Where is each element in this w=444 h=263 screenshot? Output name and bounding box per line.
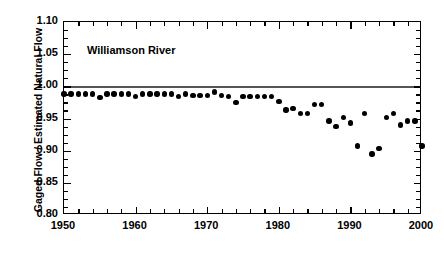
data-point	[269, 94, 274, 99]
data-point	[384, 115, 389, 120]
data-point	[197, 93, 202, 98]
axis-tick	[64, 54, 71, 55]
data-point	[305, 111, 310, 116]
axis-tick	[408, 22, 409, 26]
data-point	[76, 91, 81, 96]
axis-tick	[279, 207, 280, 214]
axis-tick	[164, 22, 165, 26]
axis-tick	[416, 110, 420, 111]
data-point	[90, 91, 95, 96]
axis-tick	[322, 209, 323, 213]
data-point	[376, 146, 381, 151]
data-point	[276, 99, 281, 104]
axis-tick	[250, 209, 251, 213]
data-point	[97, 95, 102, 100]
y-tick-label: 0.85	[10, 175, 58, 187]
data-point	[119, 91, 124, 96]
y-tick-label: 1.10	[10, 14, 58, 26]
axis-tick	[64, 119, 71, 120]
axis-tick	[416, 102, 420, 103]
axis-tick	[64, 127, 68, 128]
axis-tick	[64, 159, 68, 160]
axis-tick	[322, 22, 323, 26]
axis-tick	[414, 54, 421, 55]
axis-tick	[416, 159, 420, 160]
data-point	[154, 91, 159, 96]
axis-tick	[136, 207, 137, 214]
axis-tick	[416, 135, 420, 136]
axis-tick	[64, 143, 68, 144]
axis-tick	[236, 209, 237, 213]
data-point	[341, 115, 346, 120]
axis-tick	[416, 143, 420, 144]
axis-tick	[416, 46, 420, 47]
axis-tick	[416, 191, 420, 192]
axis-tick	[193, 22, 194, 26]
axis-tick	[416, 30, 420, 31]
axis-tick	[64, 94, 68, 95]
chart-figure: Gaged Flow / Estimated Natural Flow 0.80…	[0, 0, 444, 263]
data-point	[190, 93, 195, 98]
axis-tick	[350, 22, 351, 29]
data-point	[312, 102, 317, 107]
reference-line-1.00	[64, 86, 420, 87]
axis-tick	[93, 209, 94, 213]
axis-tick	[416, 199, 420, 200]
axis-tick	[408, 209, 409, 213]
data-point	[83, 91, 88, 96]
data-point	[226, 94, 231, 99]
axis-tick	[64, 78, 68, 79]
axis-tick	[293, 22, 294, 26]
axis-tick	[121, 209, 122, 213]
data-point	[212, 89, 217, 94]
axis-tick	[64, 86, 71, 87]
axis-tick	[64, 199, 68, 200]
axis-tick	[78, 22, 79, 26]
axis-tick	[279, 22, 280, 29]
data-point	[111, 91, 116, 96]
axis-tick	[236, 22, 237, 26]
axis-tick	[307, 22, 308, 26]
axis-tick	[179, 22, 180, 26]
axis-tick	[416, 167, 420, 168]
data-point	[398, 122, 403, 127]
axis-tick	[64, 110, 68, 111]
axis-tick	[222, 209, 223, 213]
y-tick-label: 1.00	[10, 78, 58, 90]
axis-tick	[64, 102, 68, 103]
axis-tick	[222, 22, 223, 26]
x-tick-label: 1990	[326, 219, 372, 231]
axis-tick	[365, 209, 366, 213]
y-tick-label: 0.95	[10, 111, 58, 123]
data-point	[219, 93, 224, 98]
data-point	[162, 91, 167, 96]
axis-tick	[121, 22, 122, 26]
axis-tick	[64, 62, 68, 63]
data-point	[104, 91, 109, 96]
axis-tick	[416, 207, 420, 208]
data-point	[369, 151, 374, 156]
axis-tick	[64, 151, 71, 152]
axis-tick	[393, 22, 394, 26]
data-point	[333, 124, 338, 129]
data-point	[405, 118, 410, 123]
y-tick-label: 0.80	[10, 207, 58, 219]
axis-tick	[150, 209, 151, 213]
data-point	[176, 94, 181, 99]
axis-tick	[416, 127, 420, 128]
data-point	[233, 100, 238, 105]
axis-tick	[164, 209, 165, 213]
series-annotation-label: Williamson River	[87, 44, 176, 56]
y-tick-label: 1.05	[10, 46, 58, 58]
x-tick-label: 1980	[255, 219, 301, 231]
axis-tick	[379, 209, 380, 213]
axis-tick	[207, 207, 208, 214]
data-point	[255, 94, 260, 99]
x-tick-label: 2000	[398, 219, 444, 231]
axis-tick	[264, 209, 265, 213]
axis-tick	[64, 30, 68, 31]
data-point	[140, 91, 145, 96]
axis-tick	[93, 22, 94, 26]
x-tick-label: 1970	[183, 219, 229, 231]
axis-tick	[150, 22, 151, 26]
